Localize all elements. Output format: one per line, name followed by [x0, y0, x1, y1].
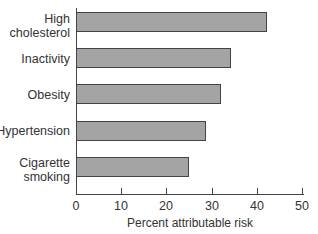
x-tick-40 [257, 188, 258, 195]
x-axis-title: Percent attributable risk [76, 216, 304, 230]
x-tick-label-10: 10 [106, 199, 136, 213]
bar-high-cholesterol [76, 12, 267, 32]
x-tick-30 [212, 188, 213, 195]
x-tick-50 [302, 188, 303, 195]
category-label-inactivity: Inactivity [21, 52, 70, 66]
x-tick-20 [166, 188, 167, 195]
x-tick-label-30: 30 [197, 199, 227, 213]
x-axis-line [76, 194, 304, 195]
bar-cigarette-smoking [76, 157, 189, 177]
category-label-hypertension: Hypertension [0, 124, 70, 138]
x-tick-label-40: 40 [242, 199, 272, 213]
bar-inactivity [76, 48, 231, 68]
category-label-high-cholesterol: High cholesterol [10, 12, 70, 40]
x-tick-10 [121, 188, 122, 195]
x-tick-label-20: 20 [151, 199, 181, 213]
x-tick-label-50: 50 [287, 199, 317, 213]
bar-hypertension [76, 121, 206, 141]
bar-obesity [76, 84, 221, 104]
category-label-cigarette-smoking: Cigarette smoking [19, 156, 70, 184]
category-label-obesity: Obesity [28, 88, 70, 102]
x-tick-label-0: 0 [61, 199, 91, 213]
